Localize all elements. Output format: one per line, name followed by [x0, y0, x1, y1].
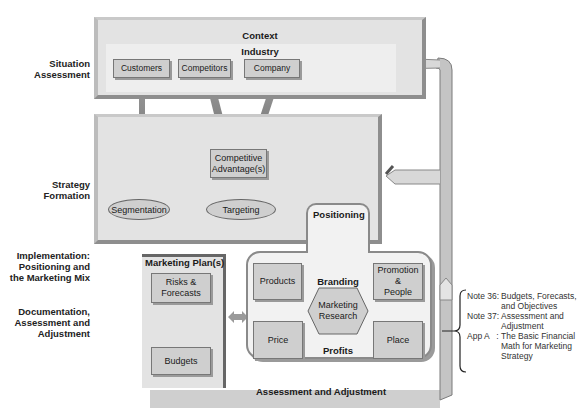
assessment-adjustment-label: Assessment and Adjustment	[256, 386, 386, 397]
promotion-people-box: Promotion & People	[373, 263, 423, 300]
note-line: The Basic Financial	[501, 331, 575, 341]
targeting-ellipse: Targeting	[206, 199, 276, 220]
label-situation-assessment: Situation Assessment	[34, 58, 90, 80]
promotion-line: &	[395, 276, 401, 287]
context-panel: Context Industry	[94, 17, 426, 99]
profits-label: Profits	[305, 345, 371, 356]
marketing-research-hexagon: Marketing Research	[308, 300, 368, 322]
industry-title: Industry	[98, 46, 422, 57]
budgets-box: Budgets	[151, 347, 211, 375]
competitive-advantage-line: Competitive	[215, 153, 263, 164]
context-title: Context	[98, 30, 422, 41]
risks-forecasts-box: Risks & Forecasts	[151, 273, 211, 303]
label-line: Assessment	[34, 69, 90, 80]
risks-line: Forecasts	[161, 288, 201, 299]
label-line: Situation	[34, 58, 90, 69]
note-item: App A : The Basic Financial Math for Mar…	[467, 331, 577, 361]
label-line: the Marketing Mix	[10, 272, 90, 283]
products-box: Products	[253, 263, 302, 300]
label-line: Formation	[44, 190, 90, 201]
note-key: App A :	[467, 331, 499, 361]
note-text: The Basic Financial Math for Marketing S…	[499, 331, 575, 361]
note-text: Budgets, Forecasts, and Objectives	[499, 291, 577, 311]
customers-box: Customers	[113, 59, 170, 78]
marketing-plan-title: Marketing Plan(s)	[145, 257, 224, 268]
place-box: Place	[373, 321, 423, 359]
competitive-advantage-line: Advantage(s)	[212, 164, 266, 175]
note-item: Note 37: Assessment and Adjustment	[467, 311, 577, 331]
note-line: Assessment and	[501, 311, 564, 321]
note-line: and Objectives	[501, 301, 577, 311]
note-line: Adjustment	[501, 321, 564, 331]
label-line: Adjustment	[14, 328, 90, 339]
note-item: Note 36: Budgets, Forecasts, and Objecti…	[467, 291, 577, 311]
research-line: Research	[308, 311, 368, 322]
note-text: Assessment and Adjustment	[499, 311, 564, 331]
label-documentation: Documentation, Assessment and Adjustment	[14, 306, 90, 339]
label-implementation: Implementation: Positioning and the Mark…	[10, 250, 90, 283]
label-line: Strategy	[44, 179, 90, 190]
notes-list: Note 36: Budgets, Forecasts, and Objecti…	[467, 291, 577, 361]
label-line: Assessment and	[14, 317, 90, 328]
competitive-advantage-box: Competitive Advantage(s)	[210, 149, 267, 178]
price-box: Price	[253, 321, 303, 359]
branding-label: Branding	[305, 276, 371, 287]
risks-line: Risks &	[166, 277, 197, 288]
label-line: Implementation:	[10, 250, 90, 261]
note-line: Budgets, Forecasts,	[501, 291, 577, 301]
company-box: Company	[244, 59, 300, 78]
positioning-title: Positioning	[313, 209, 365, 220]
promotion-line: People	[384, 287, 412, 298]
note-line: Math for Marketing	[501, 341, 575, 351]
segmentation-ellipse: Segmentation	[108, 199, 170, 220]
positioning-join	[308, 249, 368, 255]
note-line: Strategy	[501, 351, 575, 361]
promotion-line: Promotion	[377, 265, 418, 276]
label-line: Positioning and	[10, 261, 90, 272]
research-line: Marketing	[308, 300, 368, 311]
label-line: Documentation,	[14, 306, 90, 317]
note-key: Note 36:	[467, 291, 499, 311]
competitors-box: Competitors	[178, 59, 231, 78]
label-strategy-formation: Strategy Formation	[44, 179, 90, 201]
note-key: Note 37:	[467, 311, 499, 331]
